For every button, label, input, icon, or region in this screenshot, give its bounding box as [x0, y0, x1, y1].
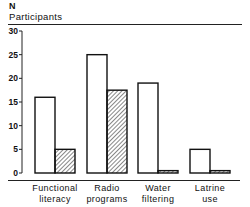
y-tick-label: 0	[13, 168, 18, 178]
y-tick-label: 5	[13, 144, 18, 154]
y-axis: 051015202530	[9, 26, 22, 178]
y-tick-label: 30	[9, 26, 19, 36]
baseline-rule	[8, 180, 240, 181]
bar-white	[190, 149, 210, 173]
bar-hatched	[55, 149, 75, 173]
bar-hatched	[158, 171, 178, 173]
bar-hatched	[210, 171, 230, 173]
y-tick-label: 20	[9, 73, 19, 83]
bar-hatched	[107, 90, 127, 173]
x-tick-label: Waterfiltering	[130, 183, 186, 205]
bar-white	[138, 83, 158, 173]
bars	[35, 55, 230, 173]
y-tick-label: 15	[9, 97, 19, 107]
x-tick-label: Radioprograms	[79, 183, 135, 205]
y-tick-label: 25	[9, 50, 19, 60]
x-tick-label: Latrineuse	[182, 183, 238, 205]
x-tick-label: Functionalliteracy	[27, 183, 83, 205]
bar-white	[87, 55, 107, 173]
y-tick-label: 10	[9, 121, 19, 131]
bar-white	[35, 97, 55, 173]
bar-chart: 051015202530	[0, 0, 250, 207]
